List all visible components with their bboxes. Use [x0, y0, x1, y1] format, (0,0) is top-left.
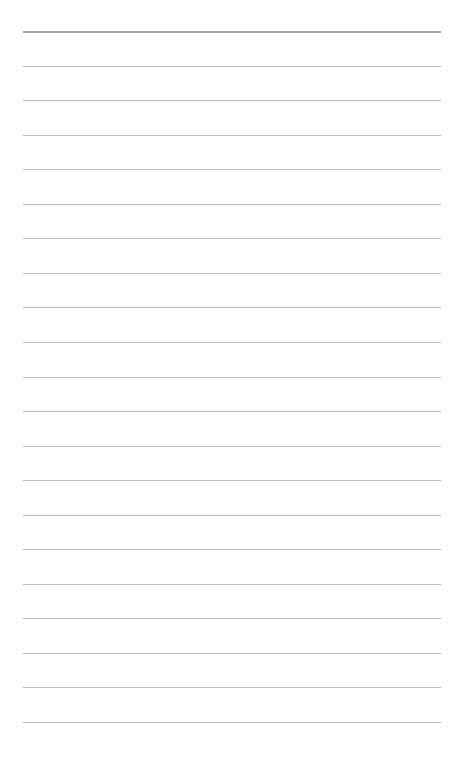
ruled-line [23, 273, 441, 274]
ruled-line [23, 169, 441, 170]
ruled-line [23, 584, 441, 585]
ruled-line [23, 66, 441, 67]
ruled-line [23, 618, 441, 619]
ruled-line [23, 238, 441, 239]
ruled-line [23, 549, 441, 550]
ruled-line [23, 722, 441, 723]
ruled-line [23, 687, 441, 688]
ruled-line [23, 515, 441, 516]
ruled-line [23, 31, 441, 33]
ruled-line [23, 100, 441, 101]
ruled-line [23, 377, 441, 378]
lined-paper-page [0, 0, 452, 773]
ruled-line [23, 307, 441, 308]
ruled-line [23, 446, 441, 447]
ruled-line [23, 135, 441, 136]
ruled-line [23, 204, 441, 205]
ruled-line [23, 653, 441, 654]
ruled-line [23, 342, 441, 343]
ruled-line [23, 411, 441, 412]
ruled-line [23, 480, 441, 481]
